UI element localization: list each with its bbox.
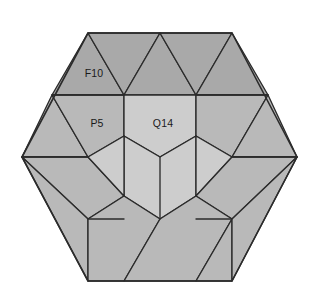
label-q14: Q14 [153,117,173,129]
label-p5: P5 [90,117,103,129]
hexagon-tiling-svg: F10P5Q14 [0,0,318,301]
figure-canvas: F10P5Q14 [0,0,318,301]
label-f10: F10 [85,67,104,79]
